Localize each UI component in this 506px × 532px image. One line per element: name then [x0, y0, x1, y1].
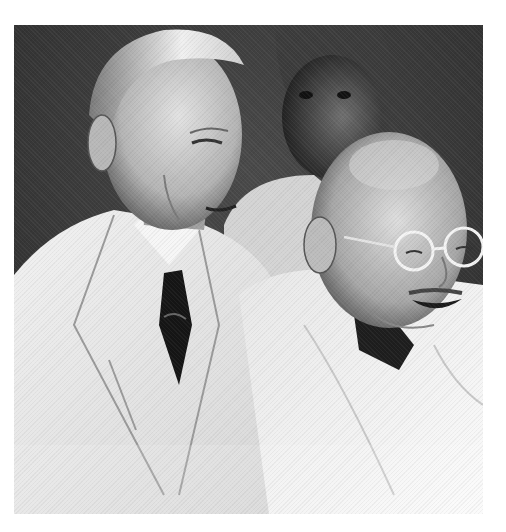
photograph: Two elderly men in white clothing smilin… — [14, 25, 483, 514]
right-man-ear — [304, 217, 336, 273]
photo-scene — [14, 25, 483, 514]
bottom-fade — [14, 445, 483, 514]
right-man-scalp-highlight — [349, 140, 439, 190]
background-man-eye — [337, 91, 351, 99]
left-man-ear — [88, 115, 116, 171]
background-man-eye — [299, 91, 313, 99]
